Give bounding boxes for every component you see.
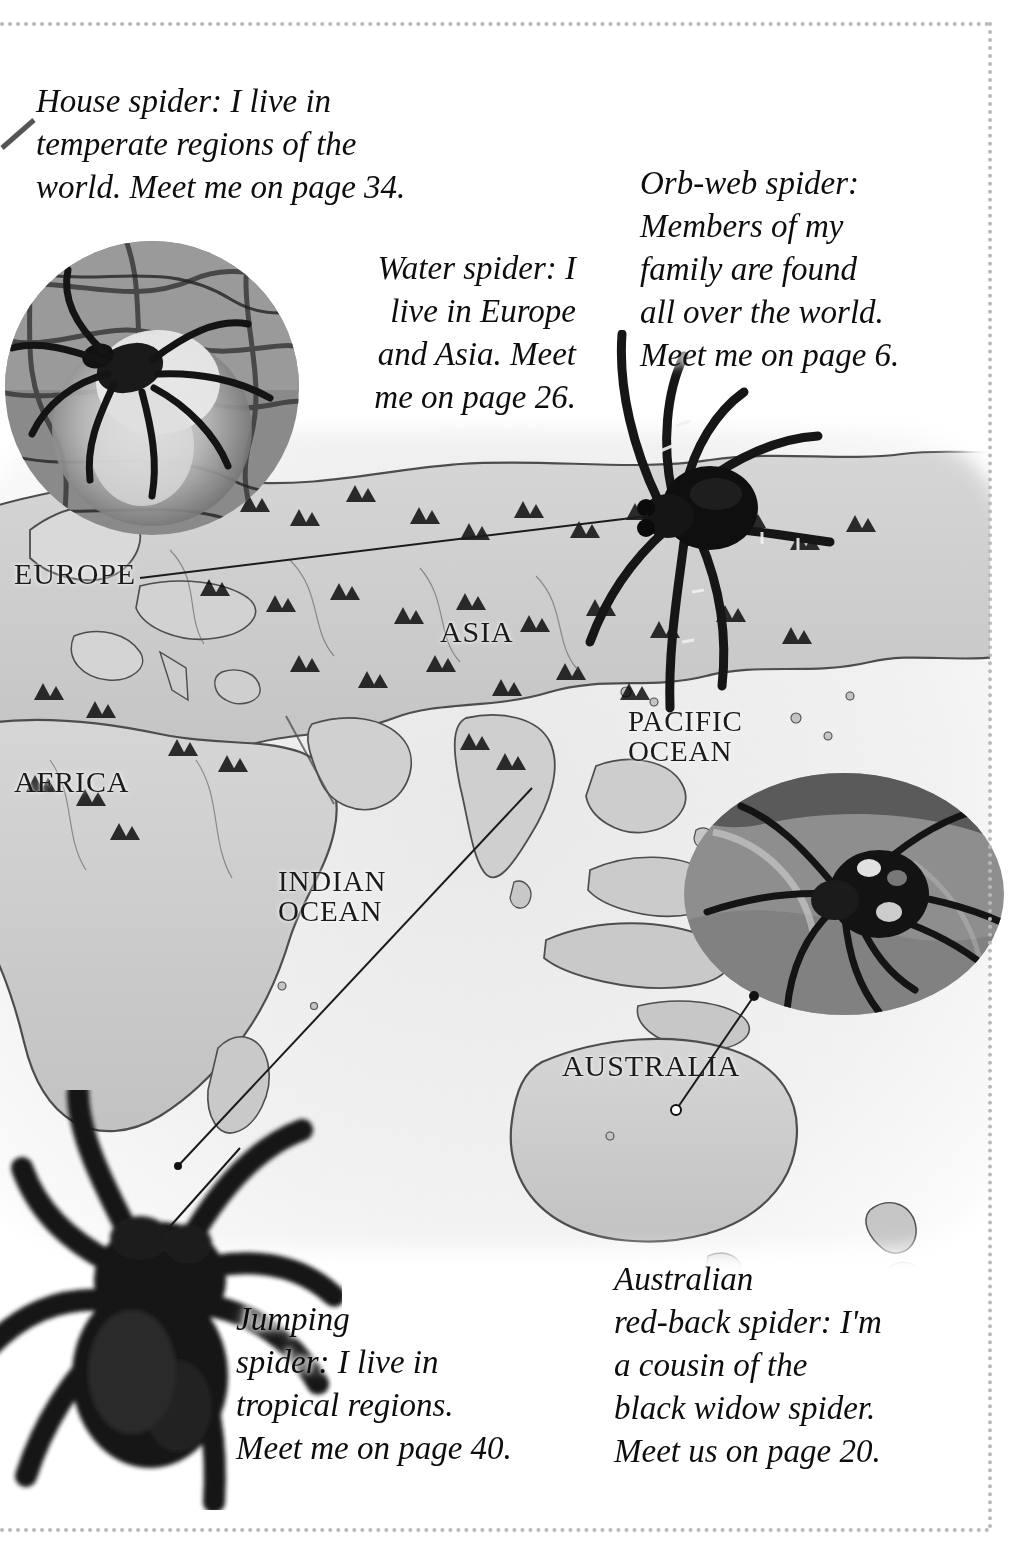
map-label-europe: EUROPE [14,558,136,590]
map-label-indian-ocean: INDIAN OCEAN [278,866,386,927]
page-border-right [988,22,992,1530]
page-border-top [0,22,990,26]
caption-orb-web-spider: Orb-web spider: Members of my family are… [640,162,960,376]
page-border-bottom [0,1528,990,1532]
redback-spider-photo [683,772,1005,1016]
leader-house-spider-pointer [2,120,34,148]
map-label-australia: AUSTRALIA [562,1050,740,1082]
caption-redback-spider: Australian red-back spider: I'm a cousin… [614,1258,964,1472]
caption-water-spider: Water spider: I live in Europe and Asia.… [246,247,576,419]
orb-web-spider-photo [566,330,866,720]
caption-house-spider: House spider: I live in temperate region… [36,80,496,209]
caption-jumping-spider: Jumping spider: I live in tropical regio… [236,1298,576,1470]
map-label-asia: ASIA [440,616,514,648]
map-label-africa: AFRICA [14,766,129,798]
book-page: EUROPE ASIA AFRICA PACIFIC OCEAN INDIAN … [0,0,1034,1545]
